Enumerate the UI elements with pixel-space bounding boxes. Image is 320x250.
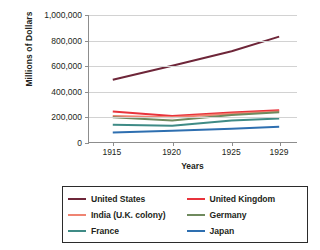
y-tick-mark: [85, 143, 89, 144]
x-axis-title: Years: [88, 161, 297, 171]
plot-area: [88, 15, 297, 143]
series-line-united-states: [113, 37, 279, 80]
series-lines-group: [89, 15, 297, 142]
y-tick-mark: [85, 66, 89, 67]
legend-item-united-kingdom[interactable]: United Kingdom: [187, 191, 306, 207]
y-tick-label: 400,000: [14, 87, 82, 97]
legend-row: India (U.K. colony)Germany: [68, 207, 305, 223]
legend-label-united-states: United States: [91, 194, 145, 204]
x-tick-mark: [232, 142, 233, 146]
x-tick-label: 1920: [148, 147, 196, 157]
gridline: [89, 15, 297, 16]
gridline: [89, 41, 297, 42]
series-line-france: [113, 119, 279, 126]
gridline: [89, 92, 297, 93]
legend-row: United StatesUnited Kingdom: [68, 191, 305, 207]
y-tick-label: 200,000: [14, 112, 82, 122]
legend-item-france[interactable]: France: [68, 223, 187, 239]
x-tick-label: 1925: [207, 147, 255, 157]
x-tick-mark: [173, 142, 174, 146]
legend-label-germany: Germany: [210, 210, 247, 220]
legend-label-india-u-k-colony: India (U.K. colony): [91, 210, 166, 220]
gridline: [89, 66, 297, 67]
legend-swatch-india-u-k-colony: [68, 214, 86, 217]
chart-legend: United StatesUnited KingdomIndia (U.K. c…: [62, 186, 308, 243]
y-tick-label: 0: [14, 138, 82, 148]
y-tick-mark: [85, 117, 89, 118]
y-tick-label: 1,000,000: [14, 10, 82, 20]
x-tick-mark: [280, 142, 281, 146]
series-line-japan: [113, 127, 279, 133]
legend-swatch-united-kingdom: [187, 198, 205, 201]
legend-swatch-germany: [187, 214, 205, 217]
legend-item-japan[interactable]: Japan: [187, 223, 306, 239]
line-chart-figure: Millions of Dollars 0200,000400,000600,0…: [0, 0, 320, 250]
legend-item-united-states[interactable]: United States: [68, 191, 187, 207]
y-tick-mark: [85, 41, 89, 42]
x-tick-label: 1915: [88, 147, 136, 157]
y-tick-mark: [85, 92, 89, 93]
x-tick-label: 1929: [255, 147, 303, 157]
legend-label-united-kingdom: United Kingdom: [210, 194, 276, 204]
legend-swatch-japan: [187, 230, 205, 233]
legend-label-france: France: [91, 226, 119, 236]
gridline: [89, 117, 297, 118]
legend-swatch-united-states: [68, 198, 86, 201]
y-tick-label: 600,000: [14, 61, 82, 71]
legend-row: FranceJapan: [68, 223, 305, 239]
y-tick-mark: [85, 15, 89, 16]
y-tick-label: 800,000: [14, 36, 82, 46]
legend-swatch-france: [68, 230, 86, 233]
x-tick-mark: [113, 142, 114, 146]
legend-item-india-u-k-colony[interactable]: India (U.K. colony): [68, 207, 187, 223]
legend-item-germany[interactable]: Germany: [187, 207, 306, 223]
legend-label-japan: Japan: [210, 226, 235, 236]
